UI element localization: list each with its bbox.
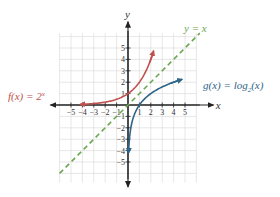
x-tick-label: 2 [149,108,153,117]
y-axis-label: y [124,8,130,20]
logarithm-label: g(x) = log2(x) [203,79,264,94]
curves [60,33,200,173]
x-tick-label: −3 [90,108,99,117]
exponential-curve-arrow [150,51,154,63]
y-tick-label: −2 [116,124,125,133]
identity-line [60,33,200,173]
logarithm-curve-arrow [171,79,183,83]
y-tick-label: −5 [116,158,125,167]
x-tick-label: 1 [137,108,141,117]
axes: xy [50,8,220,187]
y-tick-label: 4 [121,55,125,64]
x-tick-label: 4 [172,108,176,117]
x-tick-label: −4 [78,108,87,117]
y-tick-label: −1 [116,112,125,121]
exponential-label: f(x) = 2x [8,90,46,103]
identity-label: y = x [183,22,207,34]
y-tick-label: −3 [116,135,125,144]
x-tick-label: −2 [101,108,110,117]
x-tick-label: −5 [67,108,76,117]
y-tick-label: 3 [121,67,125,76]
function-graph: xy −5−4−3−2−112345−5−4−3−2−112345 f(x) =… [0,0,280,197]
function-labels: f(x) = 2xg(x) = log2(x)y = x [8,22,264,103]
y-tick-label: −4 [116,147,125,156]
y-tick-label: 5 [121,44,125,53]
y-tick-label: 2 [121,78,125,87]
x-axis-label: x [215,99,221,111]
x-tick-label: 5 [183,108,187,117]
x-tick-label: 3 [160,108,164,117]
